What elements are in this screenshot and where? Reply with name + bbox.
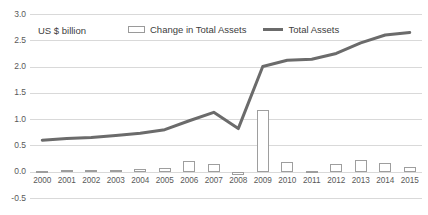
x-axis-tick-label: 2007 [202,176,227,186]
y-axis-tick-label: 1.5 [2,88,26,97]
x-axis-tick-label: 2015 [398,176,423,186]
x-axis-tick-label: 2008 [226,176,251,186]
plot-area [30,14,422,198]
x-axis-tick-label: 2000 [30,176,55,186]
x-axis-tick-label: 2005 [153,176,178,186]
y-axis-tick-label: -0.5 [2,194,26,203]
x-axis-tick-label: 2006 [177,176,202,186]
total-assets-line [42,32,410,140]
x-axis-tick-label: 2014 [373,176,398,186]
y-axis-tick-label: 1.0 [2,115,26,124]
x-axis-tick-label: 2003 [104,176,129,186]
x-axis-tick-label: 2012 [324,176,349,186]
y-axis-tick-label: 2.0 [2,62,26,71]
y-axis-tick-label: 0.0 [2,167,26,176]
x-axis-tick-label: 2013 [349,176,374,186]
line-series-total-assets [30,14,422,198]
y-axis-tick-label: 2.5 [2,36,26,45]
y-axis-tick-label: 0.5 [2,141,26,150]
x-axis-tick-label: 2001 [55,176,80,186]
x-axis-tick-label: 2011 [300,176,325,186]
gridline [30,198,422,199]
x-axis-tick-label: 2009 [251,176,276,186]
chart-container: 3.02.52.01.51.00.50.0-0.5 US $ billion C… [0,0,428,215]
x-axis-tick-label: 2002 [79,176,104,186]
x-axis-tick-label: 2010 [275,176,300,186]
x-axis-tick-label: 2004 [128,176,153,186]
y-axis-tick-label: 3.0 [2,10,26,19]
